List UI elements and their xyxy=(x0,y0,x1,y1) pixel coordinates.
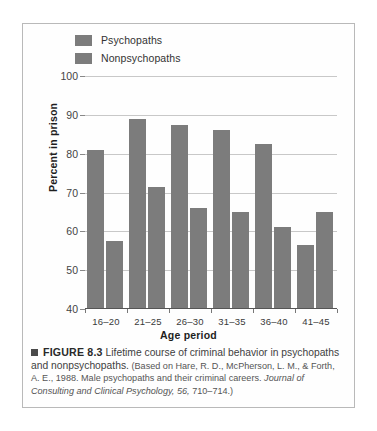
y-axis-title: Percent in prison xyxy=(47,103,59,192)
bar-psychopaths-41–45 xyxy=(297,245,314,309)
legend-swatch-icon xyxy=(75,53,92,64)
y-tick-label: 40 xyxy=(66,303,78,315)
x-tick-mark xyxy=(127,309,128,313)
x-tick-label: 41–45 xyxy=(302,316,329,327)
y-tick-label: 100 xyxy=(60,70,78,82)
bar-nonpsychopaths-36–40 xyxy=(274,227,291,309)
x-tick-mark xyxy=(337,309,338,313)
x-tick-mark xyxy=(85,309,86,313)
x-tick-mark xyxy=(253,309,254,313)
y-tick-label: 80 xyxy=(66,148,78,160)
x-tick-label: 36–40 xyxy=(260,316,287,327)
y-tick-label: 90 xyxy=(66,109,78,121)
bar-group: 31–35 xyxy=(211,76,253,309)
figure-source-pages: 710–714.) xyxy=(192,386,233,396)
bar-psychopaths-31–35 xyxy=(213,130,230,309)
bar-psychopaths-26–30 xyxy=(171,125,188,309)
plot-area: 405060708090100 16–2021–2526–3031–3536–4… xyxy=(85,76,337,309)
bar-psychopaths-36–40 xyxy=(255,144,272,309)
x-tick-label: 26–30 xyxy=(176,316,203,327)
figure-card: PsychopathsNonpsychopaths Percent in pri… xyxy=(22,23,355,408)
bar-nonpsychopaths-41–45 xyxy=(316,212,333,309)
figure-label: FIGURE 8.3 xyxy=(43,346,103,358)
y-tick-label: 70 xyxy=(66,187,78,199)
bar-group: 26–30 xyxy=(169,76,211,309)
bar-nonpsychopaths-31–35 xyxy=(232,212,249,309)
square-bullet-icon xyxy=(31,349,38,356)
legend-item-psychopaths: Psychopaths xyxy=(75,32,181,48)
legend-label: Nonpsychopaths xyxy=(101,52,181,64)
legend-item-nonpsychopaths: Nonpsychopaths xyxy=(75,50,181,66)
bar-nonpsychopaths-26–30 xyxy=(190,208,207,309)
x-axis-title: Age period xyxy=(23,329,354,341)
bar-group: 16–20 xyxy=(85,76,127,309)
bars-layer: 16–2021–2526–3031–3536–4041–45 xyxy=(85,76,337,309)
x-tick-mark xyxy=(211,309,212,313)
y-tick-label: 60 xyxy=(66,225,78,237)
legend-swatch-icon xyxy=(75,35,92,46)
legend-label: Psychopaths xyxy=(101,34,162,46)
x-tick-label: 31–35 xyxy=(218,316,245,327)
bar-group: 21–25 xyxy=(127,76,169,309)
bar-nonpsychopaths-16–20 xyxy=(106,241,123,309)
x-tick-mark xyxy=(169,309,170,313)
bar-psychopaths-21–25 xyxy=(129,119,146,309)
x-tick-label: 21–25 xyxy=(134,316,161,327)
chart-legend: PsychopathsNonpsychopaths xyxy=(75,32,181,68)
bar-psychopaths-16–20 xyxy=(87,150,104,309)
bar-group: 41–45 xyxy=(295,76,337,309)
x-tick-mark xyxy=(295,309,296,313)
x-axis-line xyxy=(85,308,337,309)
figure-caption: FIGURE 8.3 Lifetime course of criminal b… xyxy=(31,346,344,397)
x-tick-label: 16–20 xyxy=(92,316,119,327)
bar-group: 36–40 xyxy=(253,76,295,309)
bar-nonpsychopaths-21–25 xyxy=(148,187,165,309)
y-tick-label: 50 xyxy=(66,264,78,276)
